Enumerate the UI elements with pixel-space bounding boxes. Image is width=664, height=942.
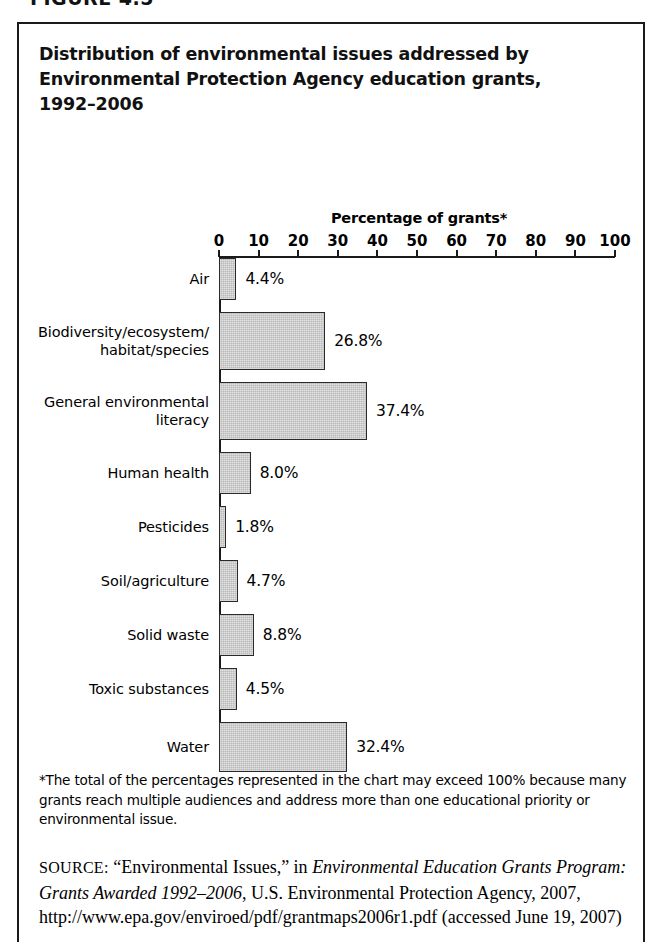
source-text-part-1: “Environmental Issues,” in xyxy=(109,857,312,877)
bar-value-label: 32.4% xyxy=(356,738,404,756)
category-label-line: Solid waste xyxy=(127,626,209,644)
category-label-line: Biodiversity/ecosystem/ xyxy=(38,323,209,341)
bar-value-label: 26.8% xyxy=(334,332,382,350)
category-label-line: Human health xyxy=(107,464,209,482)
bar xyxy=(219,258,236,300)
bar-value-label: 1.8% xyxy=(235,518,274,536)
x-tick-label-40: 40 xyxy=(367,232,388,250)
bar-row: Pesticides1.8% xyxy=(19,506,647,560)
x-tick-label-20: 20 xyxy=(288,232,309,250)
bar-row: Water32.4% xyxy=(19,722,647,772)
bar-value-label: 37.4% xyxy=(376,402,424,420)
category-label-line: Soil/agriculture xyxy=(101,572,209,590)
category-label: Human health xyxy=(107,464,209,482)
x-tick-label-70: 70 xyxy=(486,232,507,250)
category-label-line: Pesticides xyxy=(138,518,209,536)
bar-row: General environmentalliteracy37.4% xyxy=(19,382,647,452)
category-label-line: Water xyxy=(167,738,209,756)
bar xyxy=(219,382,367,440)
category-label: Solid waste xyxy=(127,626,209,644)
chart-title-line-1: Distribution of environmental issues add… xyxy=(39,42,599,67)
bar-and-value: 1.8% xyxy=(219,506,274,548)
category-label: Water xyxy=(167,738,209,756)
source-label: SOURCE: xyxy=(39,859,109,876)
category-label: Toxic substances xyxy=(89,680,209,698)
x-tick-label-100: 100 xyxy=(599,232,630,250)
x-tick-label-60: 60 xyxy=(446,232,467,250)
bar-chart-plot-area: Percentage of grants* 010203040506070809… xyxy=(19,164,647,764)
x-tick-label-10: 10 xyxy=(248,232,269,250)
category-label: General environmentalliteracy xyxy=(44,393,209,429)
category-label-line: General environmental xyxy=(44,393,209,411)
bar-row: Soil/agriculture4.7% xyxy=(19,560,647,614)
chart-title-line-3: 1992–2006 xyxy=(39,92,599,117)
bar-and-value: 4.5% xyxy=(219,668,284,710)
bar-and-value: 8.0% xyxy=(219,452,298,494)
figure-panel: Distribution of environmental issues add… xyxy=(17,22,645,942)
bar-value-label: 8.8% xyxy=(263,626,302,644)
bar-series: Air4.4%Biodiversity/ecosystem/habitat/sp… xyxy=(19,258,647,772)
source-citation: SOURCE: “Environmental Issues,” in Envir… xyxy=(39,855,631,930)
bar-value-label: 4.5% xyxy=(246,680,285,698)
bar xyxy=(219,312,325,370)
chart-title: Distribution of environmental issues add… xyxy=(39,42,599,117)
chart-title-line-2: Environmental Protection Agency educatio… xyxy=(39,67,599,92)
x-tick-label-80: 80 xyxy=(525,232,546,250)
bar-row: Human health8.0% xyxy=(19,452,647,506)
bar-and-value: 4.4% xyxy=(219,258,284,300)
bar xyxy=(219,560,238,602)
bar-row: Biodiversity/ecosystem/habitat/species26… xyxy=(19,312,647,382)
bar-value-label: 4.4% xyxy=(245,270,284,288)
category-label-line: habitat/species xyxy=(38,341,209,359)
bar-row: Air4.4% xyxy=(19,258,647,312)
bar-and-value: 4.7% xyxy=(219,560,285,602)
category-label-line: literacy xyxy=(44,411,209,429)
bar-and-value: 32.4% xyxy=(219,722,405,772)
category-label-line: Air xyxy=(189,270,209,288)
chart-footnote: *The total of the percentages represente… xyxy=(39,771,627,830)
bar-row: Toxic substances4.5% xyxy=(19,668,647,722)
category-label: Biodiversity/ecosystem/habitat/species xyxy=(38,323,209,359)
category-label-line: Toxic substances xyxy=(89,680,209,698)
bar xyxy=(219,668,237,710)
bar xyxy=(219,614,254,656)
x-tick-label-90: 90 xyxy=(565,232,586,250)
category-label: Pesticides xyxy=(138,518,209,536)
bar-and-value: 26.8% xyxy=(219,312,382,370)
bar xyxy=(219,452,251,494)
bar-and-value: 37.4% xyxy=(219,382,424,440)
bar-and-value: 8.8% xyxy=(219,614,301,656)
category-label: Soil/agriculture xyxy=(101,572,209,590)
x-tick-label-50: 50 xyxy=(407,232,428,250)
x-axis-title: Percentage of grants* xyxy=(219,210,619,226)
category-label: Air xyxy=(189,270,209,288)
bar-row: Solid waste8.8% xyxy=(19,614,647,668)
x-tick-label-30: 30 xyxy=(327,232,348,250)
x-tick-label-0: 0 xyxy=(214,232,224,250)
figure-number-label: FIGURE 4.5 xyxy=(30,0,154,9)
bar xyxy=(219,506,226,548)
x-axis-tick-labels: 0102030405060708090100 xyxy=(19,232,647,252)
bar xyxy=(219,722,347,772)
bar-value-label: 8.0% xyxy=(260,464,299,482)
bar-value-label: 4.7% xyxy=(247,572,286,590)
